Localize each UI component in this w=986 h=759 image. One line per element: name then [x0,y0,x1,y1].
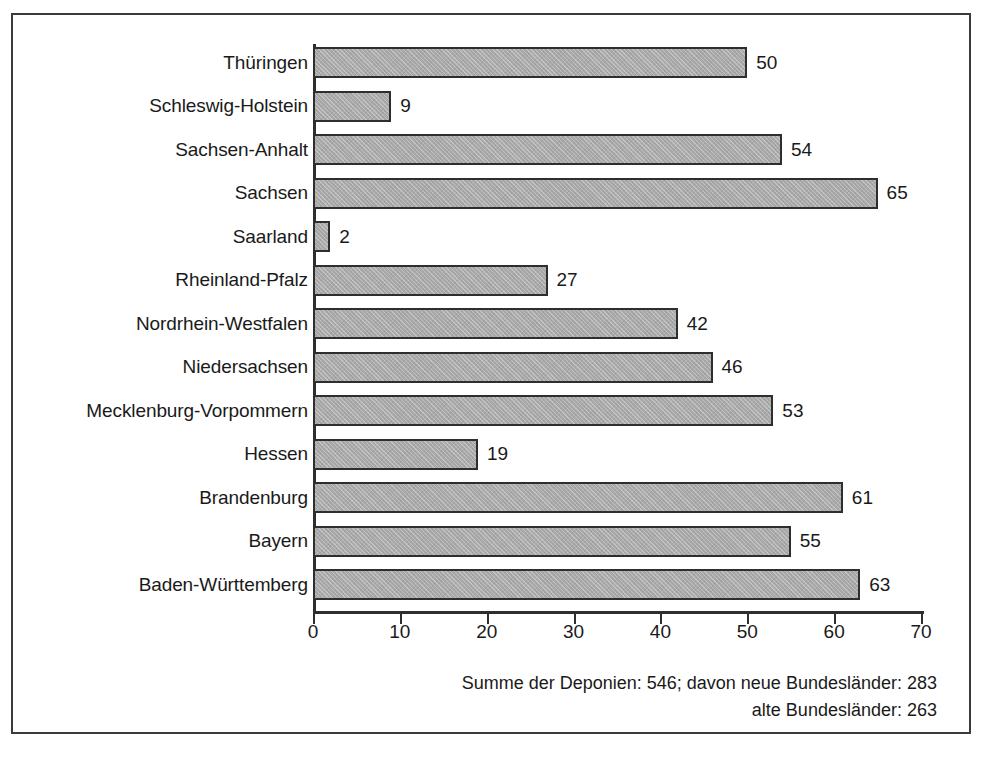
bar-value-label: 9 [400,96,411,115]
bar [313,134,782,165]
bar-value-label: 27 [557,270,578,289]
x-axis-tick-label: 40 [638,622,682,641]
bar-value-label: 50 [756,53,777,72]
bar [313,526,791,557]
x-axis-tick-label: 10 [378,622,422,641]
bar-value-label: 19 [487,444,508,463]
bar-value-label: 54 [791,140,812,159]
category-label: Niedersachsen [183,357,308,376]
bar [313,178,878,209]
bar [313,221,330,252]
x-axis-tick-label: 30 [552,622,596,641]
category-label: Baden-Württemberg [139,575,308,594]
bar [313,352,713,383]
bar-value-label: 46 [722,357,743,376]
x-axis-line [313,611,924,614]
bar [313,308,678,339]
category-label: Bayern [248,531,308,550]
figure: Thüringen50Schleswig-Holstein9Sachsen-An… [0,0,986,759]
category-label: Thüringen [223,53,308,72]
category-label: Rheinland-Pfalz [175,270,308,289]
bar-value-label: 2 [339,227,350,246]
x-axis-tick-label: 0 [291,622,335,641]
bar-value-label: 65 [887,183,908,202]
category-label: Schleswig-Holstein [149,96,308,115]
bar [313,482,843,513]
chart-footnote: Summe der Deponien: 546; davon neue Bund… [330,670,937,724]
category-label: Saarland [233,227,308,246]
bar [313,395,773,426]
category-label: Mecklenburg-Vorpommern [86,401,308,420]
bar [313,91,391,122]
footnote-line-2: alte Bundesländer: 263 [330,697,937,724]
bar [313,439,478,470]
x-axis-tick-label: 50 [725,622,769,641]
bar [313,265,548,296]
category-label: Brandenburg [199,488,308,507]
bar-chart-plot-area: Thüringen50Schleswig-Holstein9Sachsen-An… [0,0,986,759]
category-label: Sachsen [235,183,308,202]
bar [313,569,860,600]
bar-value-label: 42 [687,314,708,333]
x-axis-tick-label: 60 [812,622,856,641]
x-axis-tick-label: 70 [899,622,943,641]
bar-value-label: 61 [852,488,873,507]
x-axis-tick-label: 20 [465,622,509,641]
category-label: Nordrhein-Westfalen [136,314,308,333]
category-label: Sachsen-Anhalt [175,140,308,159]
bar-value-label: 63 [869,575,890,594]
bar-value-label: 53 [782,401,803,420]
category-label: Hessen [244,444,308,463]
bar-value-label: 55 [800,531,821,550]
bar [313,47,747,78]
footnote-line-1: Summe der Deponien: 546; davon neue Bund… [330,670,937,697]
